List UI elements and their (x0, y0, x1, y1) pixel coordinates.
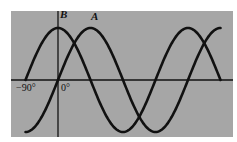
plot-area (0, 0, 237, 142)
curve-b-label: B (60, 8, 67, 20)
phase-diagram: B A −90° 0° (0, 0, 237, 142)
curve-a-label: A (91, 10, 98, 22)
tick-label-neg90: −90° (16, 82, 36, 93)
tick-label-zero: 0° (61, 82, 70, 93)
